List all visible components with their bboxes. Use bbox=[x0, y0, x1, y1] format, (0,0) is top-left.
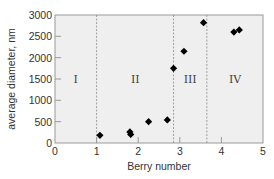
y-tick-label: 500 bbox=[34, 116, 52, 128]
y-tick-label: 2000 bbox=[29, 52, 53, 64]
y-tick-label: 3000 bbox=[29, 9, 53, 21]
x-tick-label: 3 bbox=[177, 145, 183, 157]
y-axis-title: average diameter, nm bbox=[5, 28, 17, 130]
y-tick-label: 1000 bbox=[29, 94, 53, 106]
region-label: I bbox=[74, 73, 78, 86]
x-tick-label: 0 bbox=[52, 145, 58, 157]
x-tick-label: 2 bbox=[135, 145, 141, 157]
x-axis-title: Berry number bbox=[127, 160, 191, 172]
y-tick-label: 2500 bbox=[29, 30, 53, 42]
y-tick-label: 1500 bbox=[29, 73, 53, 85]
x-tick-label: 5 bbox=[260, 145, 266, 157]
region-label: IV bbox=[229, 73, 242, 86]
scatter-chart: IIIIIIIV 050010001500200025003000 012345… bbox=[0, 0, 274, 179]
region-label: II bbox=[131, 73, 140, 86]
region-label: III bbox=[184, 73, 197, 86]
x-tick-label: 4 bbox=[218, 145, 224, 157]
x-tick-label: 1 bbox=[94, 145, 100, 157]
